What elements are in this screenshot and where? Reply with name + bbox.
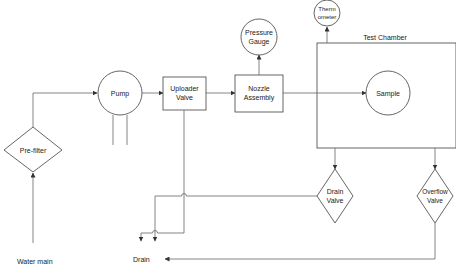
thermometer-node: Therm ometer <box>314 0 340 26</box>
pump-node: Pump <box>98 71 142 115</box>
prefilter-label: Pre-filter <box>20 147 47 154</box>
overflow-valve-label-line2: Valve <box>427 197 443 204</box>
nozzle-assembly-label-line1: Nozzle <box>248 85 270 92</box>
pressure-gauge-label-line2: Gauge <box>248 38 269 46</box>
drain-label: Drain <box>133 256 150 263</box>
water-main-label: Water main <box>17 258 53 265</box>
drain-valve-label-line1: Drain <box>327 188 344 195</box>
drain-valve-label-line2: Valve <box>327 197 344 204</box>
pressure-gauge-node: Pressure Gauge <box>241 19 277 55</box>
test-chamber-label: Test Chamber <box>363 34 407 41</box>
nozzle-assembly-label-line2: Assembly <box>244 94 275 102</box>
overflow-to-drain-line <box>165 223 435 259</box>
uploader-valve-node: Uploader Valve <box>163 77 206 110</box>
prefilter-to-pump-line <box>33 93 97 127</box>
prefilter-node: Pre-filter <box>4 127 62 172</box>
thermometer-label-line2: ometer <box>318 14 337 20</box>
process-flow-diagram: Water main Pre-filter Pump Uploader Valv… <box>0 0 456 267</box>
uploader-valve-label-line1: Uploader <box>170 85 199 93</box>
drain-valve-to-drain-line <box>155 194 317 242</box>
thermometer-label-line1: Therm <box>318 6 335 12</box>
overflow-valve-node: Overflow Valve <box>417 169 453 223</box>
sample-label: Sample <box>376 90 400 98</box>
pump-label: Pump <box>111 90 129 98</box>
uploader-to-drain-line <box>141 110 184 241</box>
overflow-valve-label-line1: Overflow <box>422 188 448 195</box>
nozzle-assembly-node: Nozzle Assembly <box>235 75 283 112</box>
pressure-gauge-label-line1: Pressure <box>245 29 273 36</box>
sample-node: Sample <box>366 71 410 115</box>
uploader-valve-label-line2: Valve <box>176 94 193 101</box>
drain-valve-node: Drain Valve <box>317 169 353 223</box>
